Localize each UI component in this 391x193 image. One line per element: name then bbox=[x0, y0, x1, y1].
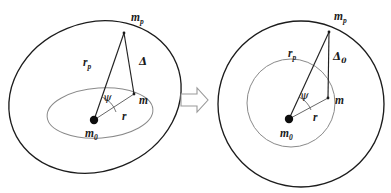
left-inner-orbit-ellipse bbox=[45, 84, 154, 141]
right-label-delta0: Δ0 bbox=[332, 50, 347, 65]
left-label-m0-subscript: 0 bbox=[94, 133, 98, 142]
transition-arrow-group bbox=[181, 88, 208, 112]
rightwards-transition-arrow-icon bbox=[181, 88, 208, 112]
left-label-psi: ψ bbox=[103, 91, 112, 104]
left-label-rp: rp bbox=[83, 56, 91, 71]
left-vector-delta bbox=[124, 33, 134, 94]
left-label-m0: m0 bbox=[85, 127, 98, 142]
right-vector-delta0 bbox=[328, 32, 329, 98]
right-point-mp-marker bbox=[328, 31, 331, 34]
left-point-mp-marker bbox=[123, 32, 126, 35]
right-label-delta0-base: Δ bbox=[332, 50, 341, 62]
left-label-rp-subscript: p bbox=[86, 62, 91, 71]
right-label-rp-subscript: p bbox=[291, 53, 296, 62]
figure-canvas: mp rp Δ ψ m r m0 bbox=[0, 0, 391, 193]
left-vector-rp bbox=[94, 33, 124, 120]
left-label-delta: Δ bbox=[138, 55, 147, 67]
left-label-mp-base: m bbox=[131, 11, 140, 23]
right-label-m: m bbox=[335, 94, 344, 106]
orbital-geometry-figure: mp rp Δ ψ m r m0 bbox=[0, 0, 391, 193]
left-label-r: r bbox=[122, 110, 127, 122]
right-outer-orbit-circle bbox=[218, 21, 384, 187]
left-central-body-dot bbox=[90, 116, 98, 124]
right-label-m0-subscript: 0 bbox=[289, 133, 293, 142]
right-label-psi: ψ bbox=[300, 89, 309, 102]
right-point-m-marker bbox=[327, 97, 330, 100]
left-label-m0-base: m bbox=[85, 127, 94, 139]
right-central-body-dot bbox=[285, 115, 293, 123]
right-label-mp: mp bbox=[334, 10, 347, 25]
left-label-mp: mp bbox=[131, 11, 144, 26]
right-panel: mp rp Δ0 ψ m r m0 bbox=[218, 10, 384, 187]
right-label-r: r bbox=[313, 111, 318, 123]
right-label-mp-base: m bbox=[334, 10, 343, 22]
right-label-m0-base: m bbox=[280, 127, 289, 139]
left-label-m: m bbox=[139, 94, 148, 106]
right-label-m0: m0 bbox=[280, 127, 293, 142]
right-label-mp-subscript: p bbox=[342, 16, 347, 25]
left-panel: mp rp Δ ψ m r m0 bbox=[0, 0, 204, 193]
right-label-delta0-subscript: 0 bbox=[341, 56, 347, 65]
right-label-rp: rp bbox=[288, 47, 296, 62]
left-point-m-marker bbox=[133, 93, 136, 96]
left-label-mp-subscript: p bbox=[139, 17, 144, 26]
